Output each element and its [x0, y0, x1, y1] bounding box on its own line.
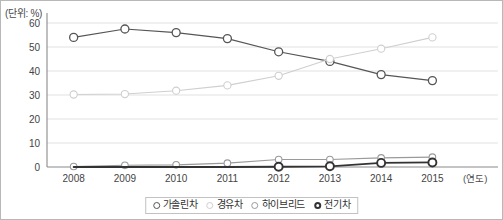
x-axis-tick-label: 2011 [217, 173, 239, 184]
y-axis-tick-label: 30 [29, 90, 41, 101]
y-axis-tick-label: 40 [29, 66, 41, 77]
data-point-marker [429, 34, 436, 41]
data-point-marker [275, 163, 283, 171]
data-point-marker [326, 162, 334, 170]
legend-label: 전기차 [324, 200, 350, 210]
series-가솔린차 [70, 25, 437, 85]
legend-label: 경유차 [217, 200, 243, 210]
legend-item-가솔린차[interactable]: 가솔린차 [153, 200, 198, 210]
data-point-marker [326, 55, 333, 62]
y-axis-tick-label: 20 [29, 114, 41, 125]
plot-area: 0102030405060 20082009201020112012201320… [1, 1, 503, 220]
x-axis-tick-label: 2009 [114, 173, 137, 184]
y-axis-tick-label: 60 [29, 18, 41, 29]
data-point-marker [275, 72, 282, 79]
data-point-marker [121, 90, 128, 97]
legend-marker-icon [252, 202, 259, 209]
data-point-marker [377, 159, 385, 167]
data-point-marker [173, 87, 180, 94]
x-axis-tick-label: 2013 [319, 173, 342, 184]
x-axis-name: (연도) [463, 173, 487, 184]
chart-legend: 가솔린차경유차하이브리드전기차 [145, 197, 359, 214]
data-point-marker [428, 158, 436, 166]
line-chart-svg: 0102030405060 20082009201020112012201320… [1, 1, 503, 220]
data-point-marker [377, 71, 385, 79]
legend-label: 하이브리드 [262, 200, 306, 210]
legend-marker-icon [207, 202, 214, 209]
x-axis-tick-label: 2008 [63, 173, 86, 184]
data-point-marker [223, 35, 231, 43]
x-axis-tick-label: 2012 [268, 173, 291, 184]
data-point-marker [70, 33, 78, 41]
x-axis-tick-label: 2015 [421, 173, 444, 184]
data-point-marker [428, 77, 436, 85]
data-point-marker [378, 45, 385, 52]
series-경유차 [70, 34, 436, 98]
x-axis-ticks: 20082009201020112012201320142015 [63, 173, 444, 184]
legend-marker-icon [153, 202, 160, 209]
chart-figure: (단위: %) 0102030405060 200820092010201120… [0, 0, 503, 220]
x-axis-tick-label: 2014 [370, 173, 393, 184]
legend-item-경유차[interactable]: 경유차 [207, 200, 243, 210]
data-point-marker [224, 160, 231, 167]
legend-item-하이브리드[interactable]: 하이브리드 [252, 200, 306, 210]
legend-item-전기차[interactable]: 전기차 [314, 200, 350, 210]
data-point-marker [70, 91, 77, 98]
y-axis-tick-label: 10 [29, 138, 41, 149]
y-axis-tick-label: 50 [29, 42, 41, 53]
data-point-marker [121, 25, 129, 33]
y-axis-ticks: 0102030405060 [29, 18, 41, 173]
legend-label: 가솔린차 [163, 200, 198, 210]
x-axis-tick-label: 2010 [165, 173, 188, 184]
data-point-marker [172, 29, 180, 37]
y-axis-tick-label: 0 [34, 162, 40, 173]
data-point-marker [224, 82, 231, 89]
legend-marker-icon [314, 202, 321, 209]
data-point-marker [275, 48, 283, 56]
